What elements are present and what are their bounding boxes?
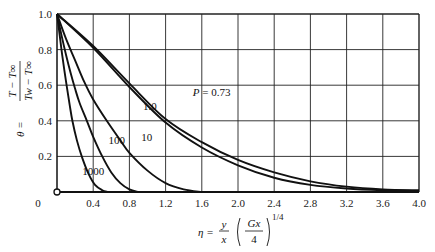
y-tick-label: 0.2 [38, 150, 52, 162]
x-label-exponent: 1/4 [272, 212, 284, 222]
origin-marker [54, 189, 60, 195]
curve-labels: P = 0.731.0101001000 [82, 86, 231, 177]
x-label-4: 4 [251, 233, 257, 245]
y-label-theta: θ = [14, 121, 26, 137]
x-tick-label: 2.4 [267, 197, 281, 209]
x-tick-label: 1.2 [159, 197, 173, 209]
x-tick-label: 0.8 [123, 197, 137, 209]
y-axis-label: θ = T − T∞ Tw − T∞ [6, 61, 34, 137]
x-tick-label: 0.4 [86, 197, 100, 209]
x-tick-label: 3.6 [376, 197, 390, 209]
x-label-x: x [221, 233, 227, 245]
curve-label: 1.0 [143, 100, 157, 112]
y-label-denominator: Tw − T∞ [22, 61, 34, 101]
x-label-y: y [221, 218, 227, 230]
x-label-eta: η = [198, 226, 214, 238]
x-tick-label: 2.0 [231, 197, 245, 209]
x-label-G: Gx [248, 217, 261, 229]
curve-label: 100 [109, 134, 126, 146]
curve-label: 10 [141, 131, 153, 143]
x-tick-label: 1.6 [195, 197, 209, 209]
y-tick-label: 1.0 [38, 8, 52, 20]
y-tick-label: 0.8 [38, 44, 52, 56]
x-tick-label: 4.0 [412, 197, 426, 209]
boundary-layer-temperature-chart: 00.40.81.21.62.02.42.83.23.64.00.20.40.6… [0, 0, 435, 252]
y-tick-label: 0.4 [38, 115, 52, 127]
axis-ticks: 00.40.81.21.62.02.42.83.23.64.00.20.40.6… [35, 8, 426, 209]
x-tick-label: 0 [35, 197, 41, 209]
curve-label: 1000 [82, 165, 105, 177]
x-axis-label: η = y x Gx 4 1/4 [198, 212, 284, 246]
y-tick-label: 0.6 [38, 79, 52, 91]
y-label-numerator: T − T∞ [6, 64, 18, 97]
x-tick-label: 2.8 [304, 197, 318, 209]
x-tick-label: 3.2 [340, 197, 354, 209]
curve-label: P = 0.73 [192, 86, 231, 98]
